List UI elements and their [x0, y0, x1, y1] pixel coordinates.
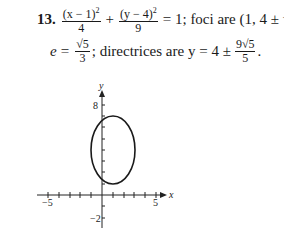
y-tick-label-neg2: −2: [90, 213, 101, 224]
ellipse-graph: x y −5 5 8 −2: [0, 0, 284, 236]
y-tick-label-8: 8: [93, 100, 98, 111]
y-axis-label: y: [98, 80, 104, 91]
y-axis-arrow: [99, 90, 105, 97]
x-axis-arrow: [160, 192, 167, 198]
ellipse-curve: [91, 116, 135, 184]
x-tick-label-neg5: −5: [42, 197, 53, 208]
x-axis-label: x: [168, 189, 174, 200]
x-tick-label-5: 5: [153, 197, 158, 208]
